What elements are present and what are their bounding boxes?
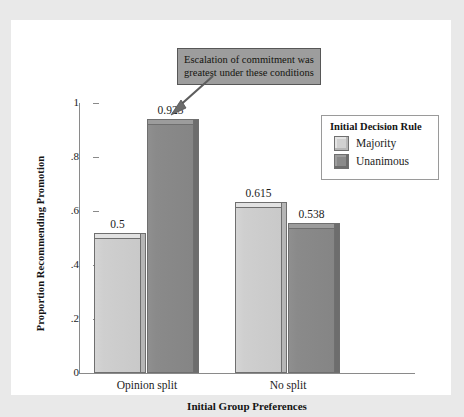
bar-majority-opinion-split[interactable]	[94, 238, 141, 373]
bar-majority-no-split[interactable]	[235, 207, 282, 373]
y-tick-label-06: .6	[45, 205, 79, 216]
callout-line-1: Escalation of commitment was	[184, 54, 314, 65]
legend-swatch-unanimous-icon	[334, 154, 349, 169]
y-tick-label-0: 0	[45, 367, 79, 378]
legend-title: Initial Decision Rule	[328, 121, 432, 132]
x-tick-label-no-split: No split	[228, 380, 348, 392]
callout-line-2: greatest under these conditions	[184, 67, 314, 78]
bar-front-face	[147, 124, 194, 373]
legend-label-majority: Majority	[356, 138, 396, 150]
x-axis-title: Initial Group Preferences	[79, 400, 415, 412]
legend-swatch-majority-icon	[334, 136, 349, 151]
y-tick-label-1: 1	[45, 97, 79, 108]
legend-item-majority[interactable]: Majority	[334, 136, 432, 151]
callout-box: Escalation of commitment was greatest un…	[177, 48, 321, 85]
legend-label-unanimous: Unanimous	[356, 156, 409, 168]
y-axis-title: Proportion Recommending Promotion	[35, 144, 46, 344]
y-tick-0: 0	[31, 373, 79, 374]
bar-value-0.923: 0.923	[144, 105, 197, 117]
x-tick-label-opinion-split: Opinion split	[87, 380, 207, 392]
bar-unanimous-no-split[interactable]	[288, 228, 335, 373]
x-axis-line	[79, 373, 415, 374]
y-axis-line	[79, 103, 80, 374]
bar-front-face	[288, 228, 335, 373]
legend: Initial Decision Rule Majority Unanimous	[321, 115, 439, 180]
bar-value-0.538: 0.538	[285, 209, 338, 221]
figure-frame: 1 .8 .6 .4 .2 0 Proportion Recommending …	[0, 0, 464, 417]
y-tick-label-02: .2	[45, 313, 79, 324]
bar-front-face	[235, 207, 282, 373]
bar-unanimous-opinion-split[interactable]	[147, 124, 194, 373]
bar-value-0.5: 0.5	[94, 219, 141, 231]
bar-front-face	[94, 238, 141, 373]
bar-value-0.615: 0.615	[232, 188, 285, 200]
y-tick-1: 1	[31, 103, 79, 104]
y-tick-label-08: .8	[45, 151, 79, 162]
chart-panel: 1 .8 .6 .4 .2 0 Proportion Recommending …	[11, 20, 451, 395]
callout-text: Escalation of commitment was greatest un…	[183, 53, 315, 79]
y-tick-label-04: .4	[45, 259, 79, 270]
legend-item-unanimous[interactable]: Unanimous	[334, 154, 432, 169]
